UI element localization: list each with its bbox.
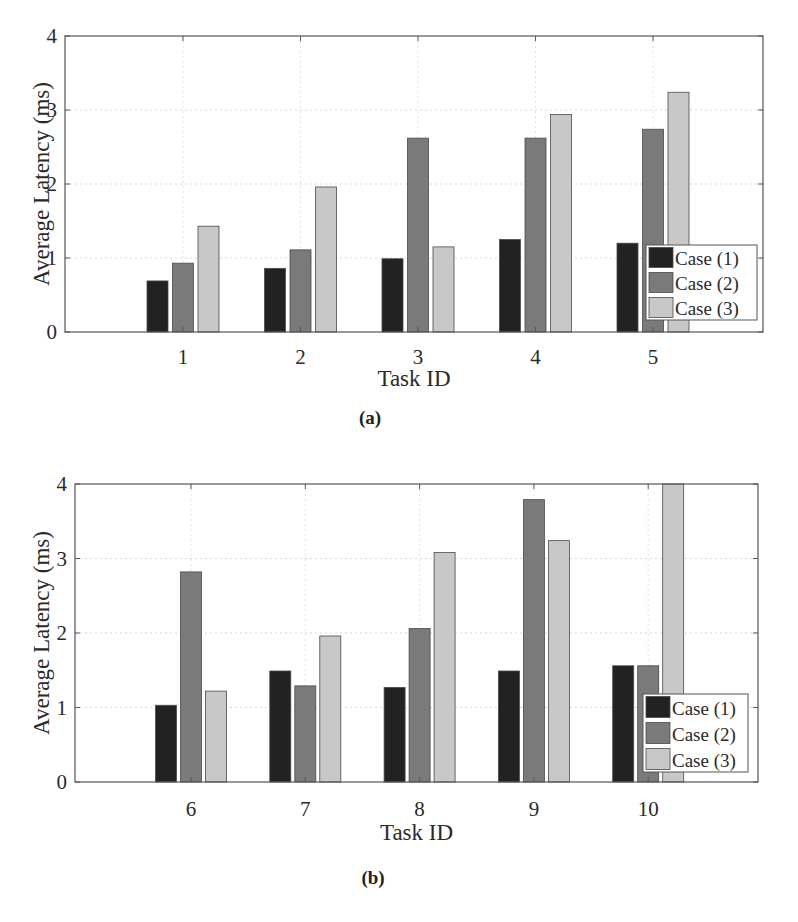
bar-chart-b: 01234678910Task IDAverage Latency (ms)Ca…	[0, 450, 798, 922]
bar-task-3-case-2	[408, 138, 429, 332]
y-tick-label: 4	[57, 472, 68, 496]
bar-task-1-case-2	[173, 263, 194, 332]
y-tick-label: 1	[57, 696, 68, 720]
bar-task-8-case-1	[384, 687, 405, 782]
bar-task-7-case-3	[320, 636, 341, 782]
bars	[156, 484, 684, 782]
x-tick-label: 10	[638, 797, 659, 821]
y-axis-label: Average Latency (ms)	[29, 531, 54, 735]
bar-task-7-case-1	[270, 671, 291, 782]
bar-task-5-case-1	[617, 243, 638, 332]
bar-chart-a: 0123412345Task IDAverage Latency (ms)Cas…	[0, 0, 798, 450]
x-tick-label: 7	[300, 797, 311, 821]
y-axis-label: Average Latency (ms)	[29, 82, 54, 286]
bar-task-6-case-2	[181, 572, 202, 782]
legend-swatch-case-2	[646, 723, 670, 744]
bar-task-4-case-3	[551, 114, 572, 332]
legend-label-case-2: Case (2)	[675, 273, 739, 295]
bar-task-4-case-1	[500, 240, 521, 333]
x-tick-label: 4	[530, 345, 541, 369]
x-tick-label: 5	[648, 345, 659, 369]
bar-task-4-case-2	[525, 138, 546, 332]
caption-a: (a)	[359, 407, 381, 429]
bar-task-8-case-2	[409, 629, 430, 782]
legend-swatch-case-2	[649, 273, 673, 293]
bar-task-1-case-1	[147, 281, 168, 332]
bar-task-8-case-3	[434, 553, 455, 782]
bars	[147, 92, 689, 332]
x-axis-label: Task ID	[377, 366, 450, 391]
legend-swatch-case-3	[646, 749, 670, 770]
bar-task-7-case-2	[295, 686, 316, 782]
legend-label-case-2: Case (2)	[672, 724, 736, 746]
bar-task-2-case-2	[290, 250, 311, 332]
y-tick-label: 4	[47, 24, 58, 48]
bar-task-10-case-1	[613, 666, 634, 782]
legend: Case (1)Case (2)Case (3)	[646, 245, 757, 320]
bar-task-1-case-3	[198, 226, 219, 332]
bar-task-9-case-3	[548, 541, 569, 782]
bar-task-2-case-1	[265, 268, 286, 332]
y-tick-label: 0	[57, 770, 68, 794]
bar-task-6-case-3	[206, 691, 227, 782]
x-tick-label: 9	[529, 797, 540, 821]
bar-task-9-case-1	[498, 671, 519, 782]
legend: Case (1)Case (2)Case (3)	[643, 694, 748, 772]
legend-label-case-3: Case (3)	[675, 298, 739, 320]
y-tick-label: 2	[57, 621, 68, 645]
caption-b: (b)	[361, 867, 384, 889]
legend-label-case-3: Case (3)	[672, 750, 736, 772]
bar-task-9-case-2	[523, 500, 544, 782]
x-tick-label: 8	[414, 797, 425, 821]
bar-task-3-case-3	[433, 247, 454, 332]
y-tick-label: 0	[47, 320, 58, 344]
figure-a: 0123412345Task IDAverage Latency (ms)Cas…	[0, 0, 798, 450]
x-axis-label: Task ID	[380, 820, 453, 845]
x-tick-label: 2	[295, 345, 306, 369]
legend-swatch-case-1	[649, 248, 673, 268]
bar-task-2-case-3	[316, 187, 337, 332]
y-tick-label: 3	[57, 547, 68, 571]
bar-task-3-case-1	[382, 259, 403, 332]
legend-label-case-1: Case (1)	[672, 698, 736, 720]
x-tick-label: 1	[178, 345, 189, 369]
legend-label-case-1: Case (1)	[675, 248, 739, 270]
x-tick-label: 6	[186, 797, 197, 821]
bar-task-6-case-1	[156, 705, 177, 782]
figure-b: 01234678910Task IDAverage Latency (ms)Ca…	[0, 450, 798, 922]
legend-swatch-case-1	[646, 697, 670, 718]
legend-swatch-case-3	[649, 298, 673, 318]
